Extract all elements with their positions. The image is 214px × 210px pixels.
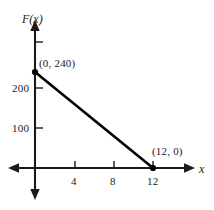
x-tick-label-12: 12 xyxy=(147,176,158,187)
data-point-0-240 xyxy=(32,69,38,75)
x-tick-label-4: 4 xyxy=(71,176,77,187)
coordinate-plane xyxy=(0,0,214,210)
y-tick-label-200: 200 xyxy=(12,83,29,94)
x-axis-label: x xyxy=(199,163,204,175)
point-annotation-intercept-y: (0, 240) xyxy=(39,58,75,69)
y-axis-bottom-arrowhead xyxy=(30,189,39,200)
graph-figure: F(x) x 200 100 4 8 12 (0, 240) (12, 0) xyxy=(0,0,214,210)
x-axis-right-arrowhead xyxy=(184,163,195,173)
x-tick-label-8: 8 xyxy=(110,176,116,187)
function-line-segment xyxy=(35,72,153,168)
y-axis xyxy=(30,20,39,200)
x-axis-left-arrowhead xyxy=(8,163,19,173)
point-annotation-intercept-x: (12, 0) xyxy=(152,146,183,157)
y-tick-label-100: 100 xyxy=(12,123,29,134)
data-point-12-0 xyxy=(150,165,156,171)
y-axis-ticks xyxy=(35,42,43,128)
y-axis-label: F(x) xyxy=(22,13,43,25)
